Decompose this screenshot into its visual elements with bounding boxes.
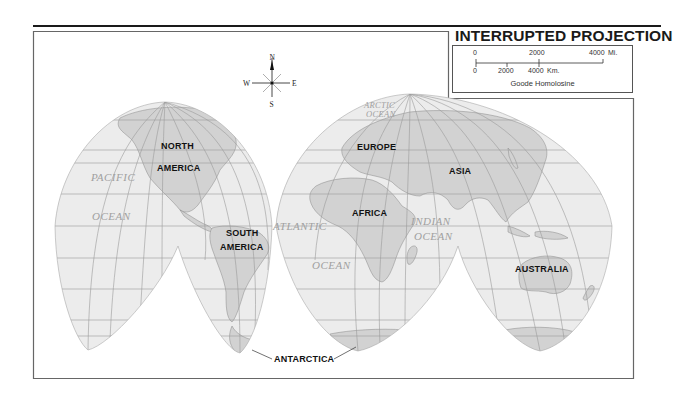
label-south-america: AMERICA	[220, 242, 264, 252]
compass-n: N	[270, 53, 276, 62]
label-indian: INDIAN	[410, 215, 451, 227]
label-atlantic-ocean: OCEAN	[312, 259, 351, 271]
antarctica-leader-right	[334, 347, 356, 359]
label-asia: ASIA	[449, 166, 472, 176]
label-africa: AFRICA	[352, 208, 387, 218]
label-europe: EUROPE	[357, 142, 396, 152]
compass-center	[270, 81, 273, 84]
label-indian-ocean: OCEAN	[414, 230, 453, 242]
label-australia: AUSTRALIA	[515, 264, 569, 274]
australia-shape	[519, 256, 572, 294]
antarctica-leader-left	[252, 350, 272, 359]
label-pacific-ocean: OCEAN	[92, 210, 131, 222]
label-antarctica: ANTARCTICA	[274, 354, 335, 364]
compass-rose: N S E W	[243, 53, 297, 109]
label-south: SOUTH	[226, 228, 259, 238]
label-north: NORTH	[161, 141, 194, 151]
label-atlantic: ATLANTIC	[272, 220, 327, 232]
compass-s: S	[270, 100, 274, 109]
compass-e: E	[292, 79, 297, 88]
label-north-america: AMERICA	[157, 163, 201, 173]
label-arctic-ocean: OCEAN	[366, 109, 396, 119]
compass-w: W	[243, 79, 251, 88]
label-pacific: PACIFIC	[90, 171, 135, 183]
